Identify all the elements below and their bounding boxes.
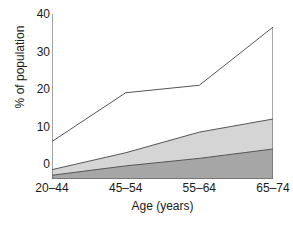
chart-canvas [52, 14, 273, 179]
y-tick-label-40: 40 [24, 9, 50, 19]
x-tick-label-0: 20–44 [17, 181, 87, 195]
series-layer [52, 27, 273, 179]
x-tick-label-3: 65–74 [238, 181, 293, 195]
plot-area [52, 14, 273, 179]
x-tick-label-2: 55–64 [164, 181, 234, 195]
y-tick-label-30: 30 [24, 47, 50, 57]
x-tick-label-1: 45–54 [91, 181, 161, 195]
y-tick-label-10: 10 [24, 122, 50, 132]
x-axis-title: Age (years) [52, 199, 273, 213]
x-axis-tick-labels: 20–44 45–54 55–64 65–74 [52, 181, 273, 197]
chart-figure: % of population 40 30 20 10 0 20–44 45–5… [0, 0, 293, 227]
y-tick-label-20: 20 [24, 84, 50, 94]
series-line-band-upper-outline [52, 27, 273, 141]
y-axis-tick-labels: 40 30 20 10 0 [24, 14, 50, 179]
y-tick-label-0: 0 [24, 159, 50, 169]
